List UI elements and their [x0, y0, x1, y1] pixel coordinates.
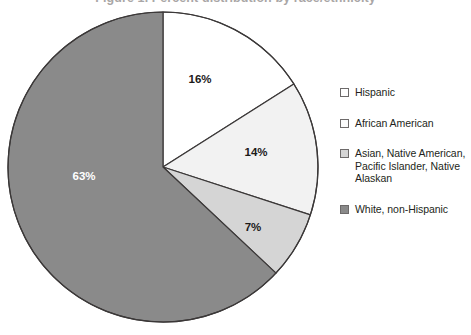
legend-swatch-white-non-hispanic — [340, 205, 349, 214]
pie-chart-figure: Figure 1. Percent distribution by race/e… — [0, 0, 471, 335]
legend-swatch-hispanic — [340, 88, 349, 97]
pie-label-african-american: 14% — [244, 146, 267, 158]
legend-label-african-american: African American — [355, 117, 434, 130]
pie-label-asian-native-american-pacific-islander-native-alaskan: 7% — [245, 221, 262, 233]
legend-item-african-american[interactable]: African American — [340, 117, 468, 130]
legend-item-asian-native-american-pacific-islander-native-alaskan[interactable]: Asian, Native American, Pacific Islander… — [340, 147, 468, 185]
legend-swatch-african-american — [340, 119, 349, 128]
legend-label-hispanic: Hispanic — [355, 86, 395, 99]
legend-item-hispanic[interactable]: Hispanic — [340, 86, 468, 99]
legend-label-white-non-hispanic: White, non-Hispanic — [355, 203, 448, 216]
legend-label-asian-native-american-pacific-islander-native-alaskan: Asian, Native American, Pacific Islander… — [355, 147, 468, 185]
chart-legend: Hispanic African American Asian, Native … — [340, 86, 468, 216]
legend-swatch-asian-native-american-pacific-islander-native-alaskan — [340, 149, 349, 158]
pie-label-white-non-hispanic: 63% — [72, 170, 95, 182]
pie-label-hispanic: 16% — [188, 73, 211, 85]
legend-item-white-non-hispanic[interactable]: White, non-Hispanic — [340, 203, 468, 216]
